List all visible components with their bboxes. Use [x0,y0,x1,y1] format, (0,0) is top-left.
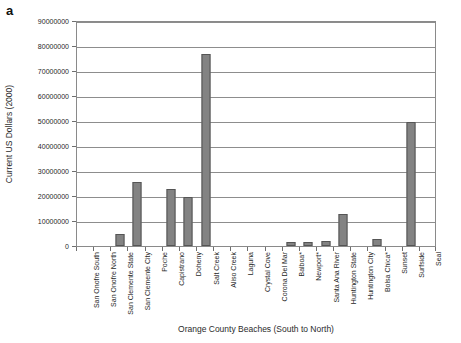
x-tick-label: San Clemente City [142,252,154,322]
bar-slot [300,22,317,246]
x-tick-label: San Clemente State [125,252,137,322]
bar[interactable] [321,241,330,246]
bar-slot [334,22,351,246]
bar-slot [403,22,420,246]
bar-slot [420,22,437,246]
bars-layer [77,22,435,246]
y-tick-label: 50000000 [38,117,69,126]
bar-slot [351,22,368,246]
y-tick-label: 40000000 [38,142,69,151]
x-tick-mark [196,247,197,251]
x-tick-label: Capistrano [176,252,188,322]
x-axis-title: Orange County Beaches (South to North) [76,324,436,334]
x-tick-mark [367,247,368,251]
bar-slot [368,22,385,246]
x-tick-mark [110,247,111,251]
x-tick-label: Laguna [245,252,257,322]
x-tick-mark [127,247,128,251]
bar[interactable] [115,234,124,247]
x-tick-mark [385,247,386,251]
bar-slot [266,22,283,246]
x-tick-label: Salt Creek [211,252,223,322]
bar-slot [248,22,265,246]
x-tick-label: San Onofre South [91,252,103,322]
x-tick-mark [282,247,283,251]
bar-slot [231,22,248,246]
bar-slot [94,22,111,246]
y-tick: 40000000 [0,142,76,151]
x-tick-label: Santa Ana River [331,252,343,322]
y-tick-label: 80000000 [38,42,69,51]
x-tick-mark [333,247,334,251]
x-tick-label: Huntington City [365,252,377,322]
x-tick-mark [162,247,163,251]
y-tick: 20000000 [0,192,76,201]
bar[interactable] [132,182,141,246]
x-tick-mark [402,247,403,251]
x-axis-labels: San Onofre SouthSan Onofre NorthSan Clem… [76,252,436,322]
x-tick-label: Surfside [416,252,428,322]
y-tick-label: 0 [65,242,69,251]
x-tick-label: Poche [159,252,171,322]
x-tick-label: Newport* [313,252,325,322]
y-tick: 0 [0,242,76,251]
y-tick: 90000000 [0,17,76,26]
y-axis-ticks: 9000000080000000700000006000000050000000… [0,0,76,343]
bar-slot [146,22,163,246]
y-tick-label: 70000000 [38,67,69,76]
y-tick: 60000000 [0,92,76,101]
bar[interactable] [167,189,176,247]
x-tick-label: Doheny [193,252,205,322]
bar[interactable] [201,54,210,247]
x-tick-label: Seal [433,252,445,322]
x-tick-label: Corona Del Mar [279,252,291,322]
x-tick-mark [265,247,266,251]
x-tick-label: Balboa* [296,252,308,322]
y-tick: 80000000 [0,42,76,51]
bar-slot [128,22,145,246]
x-tick-mark [145,247,146,251]
x-tick-label: Bolsa Chica* [382,252,394,322]
x-tick-label: Sunset [399,252,411,322]
bar[interactable] [304,242,313,246]
bar[interactable] [372,239,381,247]
bar-slot [214,22,231,246]
bar-slot [111,22,128,246]
bar-slot [386,22,403,246]
bar[interactable] [184,197,193,246]
x-tick-label: Huntington State [348,252,360,322]
x-tick-mark [435,247,436,251]
x-tick-label: San Onofre North [108,252,120,322]
x-tick-label: Aliso Creek [228,252,240,322]
y-tick-label: 30000000 [38,167,69,176]
bar-slot [77,22,94,246]
x-tick-mark [213,247,214,251]
x-tick-mark [179,247,180,251]
x-tick-mark [299,247,300,251]
x-tick-mark [76,247,77,251]
y-tick-label: 20000000 [38,192,69,201]
y-tick: 10000000 [0,217,76,226]
x-tick-mark [419,247,420,251]
x-tick-label: Crystal Cove [262,252,274,322]
y-tick-label: 90000000 [38,17,69,26]
y-tick: 70000000 [0,67,76,76]
bar-slot [180,22,197,246]
bar-slot [317,22,334,246]
y-tick: 30000000 [0,167,76,176]
x-tick-mark [316,247,317,251]
bar[interactable] [338,214,347,247]
bar-slot [163,22,180,246]
x-tick-mark [350,247,351,251]
y-tick: 50000000 [0,117,76,126]
x-tick-mark [247,247,248,251]
bar[interactable] [407,122,416,246]
bar-slot [197,22,214,246]
x-tick-mark [230,247,231,251]
plot-area [76,21,436,247]
bar-slot [283,22,300,246]
x-tick-mark [93,247,94,251]
bar[interactable] [287,242,296,247]
y-tick-label: 60000000 [38,92,69,101]
y-tick-label: 10000000 [38,217,69,226]
